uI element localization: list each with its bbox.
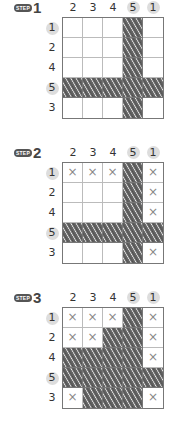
shaded-cell <box>63 78 83 98</box>
shaded-cell <box>63 223 83 243</box>
row-clue: 1 <box>44 163 60 183</box>
shaded-cell <box>103 388 123 408</box>
step-2: STEP22345112453××××××× <box>0 145 195 275</box>
empty-cell <box>143 98 163 118</box>
empty-cell <box>83 243 103 263</box>
shaded-cell <box>123 223 143 243</box>
cross-mark-cell: × <box>103 163 123 183</box>
column-clue: 1 <box>143 146 163 159</box>
cross-mark-cell: × <box>143 203 163 223</box>
shaded-cell <box>123 348 143 368</box>
empty-cell <box>63 18 83 38</box>
cross-mark-cell: × <box>143 163 163 183</box>
row-clue: 1 <box>44 308 60 328</box>
row-clue: 1 <box>44 18 60 38</box>
empty-cell <box>83 58 103 78</box>
column-clue: 4 <box>103 146 123 159</box>
row-clue: 4 <box>44 203 60 223</box>
row-clue: 2 <box>44 38 60 58</box>
empty-cell <box>83 18 103 38</box>
row-clue: 3 <box>44 388 60 408</box>
cross-mark-cell: × <box>143 348 163 368</box>
row-clue: 5 <box>44 223 60 243</box>
shaded-cell <box>123 38 143 58</box>
shaded-cell <box>83 348 103 368</box>
row-clue: 4 <box>44 58 60 78</box>
shaded-cell <box>123 163 143 183</box>
shaded-cell <box>103 348 123 368</box>
column-clue: 5 <box>123 1 143 14</box>
shaded-cell <box>123 368 143 388</box>
row-clue: 3 <box>44 243 60 263</box>
shaded-cell <box>123 183 143 203</box>
cross-mark-cell: × <box>83 328 103 348</box>
column-clue: 4 <box>103 1 123 14</box>
cross-mark-cell: × <box>143 183 163 203</box>
shaded-cell <box>103 78 123 98</box>
step-badge: STEP <box>14 294 32 302</box>
row-clue: 5 <box>44 78 60 98</box>
shaded-cell <box>123 328 143 348</box>
empty-cell <box>103 243 123 263</box>
empty-cell <box>63 183 83 203</box>
column-clue: 2 <box>63 291 83 304</box>
empty-cell <box>103 183 123 203</box>
empty-cell <box>63 243 83 263</box>
column-clue: 1 <box>143 291 163 304</box>
cross-mark-cell: × <box>63 388 83 408</box>
shaded-cell <box>103 368 123 388</box>
step-number: 3 <box>33 290 41 305</box>
empty-cell <box>83 183 103 203</box>
empty-cell <box>63 98 83 118</box>
empty-cell <box>63 58 83 78</box>
step-badge: STEP <box>14 149 32 157</box>
cross-mark-cell: × <box>63 308 83 328</box>
shaded-cell <box>83 223 103 243</box>
column-clue: 3 <box>83 146 103 159</box>
column-clue: 5 <box>123 146 143 159</box>
cross-mark-cell: × <box>143 243 163 263</box>
column-clue: 5 <box>123 291 143 304</box>
empty-cell <box>103 18 123 38</box>
shaded-cell <box>123 388 143 408</box>
row-clue: 2 <box>44 183 60 203</box>
column-clue: 2 <box>63 146 83 159</box>
shaded-cell <box>83 368 103 388</box>
step-badge: STEP <box>14 4 32 12</box>
shaded-cell <box>123 308 143 328</box>
empty-cell <box>143 58 163 78</box>
cross-mark-cell: × <box>83 308 103 328</box>
empty-cell <box>103 58 123 78</box>
shaded-cell <box>83 78 103 98</box>
row-clue: 3 <box>44 98 60 118</box>
empty-cell <box>83 98 103 118</box>
shaded-cell <box>83 388 103 408</box>
cross-mark-cell: × <box>143 308 163 328</box>
step-1: STEP12345112453 <box>0 0 195 130</box>
shaded-cell <box>123 203 143 223</box>
cross-mark-cell: × <box>83 163 103 183</box>
empty-cell <box>83 203 103 223</box>
cross-mark-cell: × <box>103 308 123 328</box>
cross-mark-cell: × <box>63 328 83 348</box>
shaded-cell <box>123 78 143 98</box>
shaded-cell <box>123 58 143 78</box>
empty-cell <box>143 38 163 58</box>
column-clue: 4 <box>103 291 123 304</box>
row-clue: 5 <box>44 368 60 388</box>
cross-mark-cell: × <box>143 328 163 348</box>
shaded-cell <box>143 368 163 388</box>
column-clue: 3 <box>83 291 103 304</box>
empty-cell <box>143 18 163 38</box>
step-number: 1 <box>33 0 41 15</box>
shaded-cell <box>123 18 143 38</box>
shaded-cell <box>103 223 123 243</box>
empty-cell <box>63 38 83 58</box>
shaded-cell <box>143 78 163 98</box>
row-clue: 4 <box>44 348 60 368</box>
empty-cell <box>83 38 103 58</box>
empty-cell <box>103 203 123 223</box>
row-clue: 2 <box>44 328 60 348</box>
shaded-cell <box>63 368 83 388</box>
shaded-cell <box>143 223 163 243</box>
